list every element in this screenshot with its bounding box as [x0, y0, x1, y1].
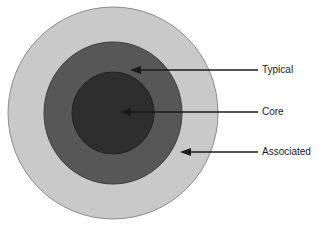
- label-core: Core: [262, 106, 284, 117]
- diagram-canvas: Typical Core Associated: [0, 0, 323, 226]
- concentric-circles-figure: Typical Core Associated: [0, 0, 323, 226]
- ring-inner-core[interactable]: [72, 72, 154, 154]
- label-typical: Typical: [262, 64, 293, 75]
- label-associated: Associated: [262, 146, 311, 157]
